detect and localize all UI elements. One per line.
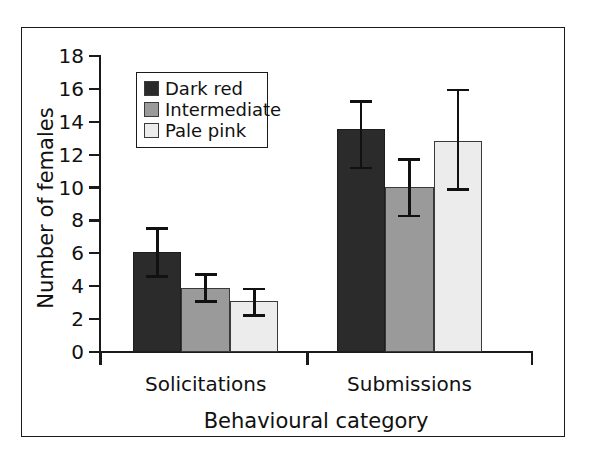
y-axis-line (99, 55, 101, 354)
chart-legend: Dark red Intermediate Pale pink (136, 72, 268, 148)
legend-label-pale-pink: Pale pink (165, 122, 246, 140)
error-bar-submissions-pale-pink (447, 89, 469, 191)
error-cap-bottom (350, 167, 372, 170)
x-category-label-solicitations: Solicitations (96, 372, 316, 396)
y-tick-10 (89, 186, 100, 188)
y-tick-8 (89, 219, 100, 221)
legend-swatch-intermediate (144, 102, 159, 117)
error-bar-submissions-intermediate (398, 158, 420, 217)
y-tick-2 (89, 318, 100, 320)
y-tick-6 (89, 252, 100, 254)
error-cap-bottom (447, 188, 469, 191)
x-tick-2 (531, 352, 533, 365)
error-cap-bottom (398, 215, 420, 218)
legend-swatch-dark-red (144, 81, 159, 96)
y-tick-16 (89, 88, 100, 90)
y-tick-label-0: 0 (0, 342, 84, 362)
legend-item-pale-pink: Pale pink (144, 120, 261, 141)
x-axis-title: Behavioural category (99, 409, 533, 433)
y-tick-4 (89, 285, 100, 287)
legend-label-intermediate: Intermediate (165, 101, 281, 119)
error-stem (360, 100, 363, 169)
y-axis-title: Number of females (34, 78, 58, 338)
error-stem (253, 288, 256, 317)
y-tick-label-18: 18 (0, 46, 84, 66)
error-cap-bottom (243, 314, 265, 317)
x-tick-1 (306, 352, 308, 365)
y-tick-12 (89, 154, 100, 156)
error-stem (408, 158, 411, 217)
error-stem (457, 89, 460, 191)
error-cap-bottom (195, 300, 217, 303)
legend-swatch-pale-pink (144, 123, 159, 138)
y-tick-14 (89, 121, 100, 123)
x-tick-0 (99, 352, 101, 365)
chart-figure: 024681012141618 SolicitationsSubmissions… (0, 0, 589, 465)
x-category-label-submissions: Submissions (299, 372, 519, 396)
error-bar-solicitations-pale-pink (243, 288, 265, 317)
error-stem (204, 273, 207, 303)
error-bar-solicitations-dark-red (146, 227, 168, 278)
error-stem (156, 227, 159, 278)
legend-item-dark-red: Dark red (144, 78, 261, 99)
error-cap-bottom (146, 275, 168, 278)
legend-item-intermediate: Intermediate (144, 99, 261, 120)
plot-area: 024681012141618 SolicitationsSubmissions… (0, 0, 589, 465)
error-bar-submissions-dark-red (350, 100, 372, 169)
y-tick-18 (89, 55, 100, 57)
y-tick-0 (89, 351, 100, 353)
error-bar-solicitations-intermediate (195, 273, 217, 303)
legend-label-dark-red: Dark red (165, 80, 243, 98)
